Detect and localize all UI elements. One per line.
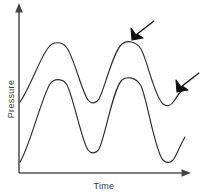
arrow-down-left-icon [176, 73, 199, 92]
arrow-down-left-icon [131, 21, 154, 40]
arrow-annotation-right-end [176, 73, 199, 92]
x-axis-label: Time [0, 181, 208, 191]
chart-figure: Pressure Time [0, 0, 208, 195]
pressure-time-plot [0, 0, 208, 195]
y-axis-label: Pressure [6, 71, 16, 127]
arrow-annotation-upper-peak [131, 21, 154, 40]
arrow-up-icon [15, 3, 23, 13]
arrow-right-icon [182, 169, 192, 177]
